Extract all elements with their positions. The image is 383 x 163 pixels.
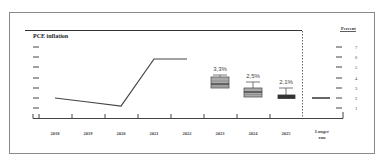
pce-history-line — [55, 59, 187, 106]
y-tick-4: 4 — [355, 76, 358, 81]
x-label-run: run — [318, 135, 326, 140]
x-label-2021: 2021 — [150, 131, 160, 136]
median-label-2023: 3,3% — [213, 66, 227, 72]
x-label-2024: 2024 — [249, 131, 259, 136]
x-label-2022: 2022 — [183, 131, 193, 136]
x-label-2020: 2020 — [117, 131, 127, 136]
median-label-2024: 2,5% — [246, 73, 260, 79]
x-label-2025: 2025 — [282, 131, 292, 136]
x-axis-labels: 2018 2019 2020 2021 2022 2023 2024 2025 … — [51, 129, 330, 140]
x-label-longer: Longer — [315, 129, 329, 134]
y-tick-7: 7 — [355, 45, 358, 50]
y-tick-6: 6 — [355, 55, 358, 60]
unit-label: Percent — [341, 26, 356, 31]
box-2025: 2,1% — [278, 79, 295, 99]
right-axis-labels: 7 6 5 4 3 2 1 — [355, 45, 358, 111]
y-tick-2: 2 — [355, 96, 357, 101]
pce-inflation-chart: PCE inflation Percent 7 6 5 4 3 2 1 — [0, 0, 383, 163]
x-label-2018: 2018 — [51, 131, 61, 136]
y-tick-1: 1 — [355, 106, 357, 111]
box-2023: 3,3% — [211, 66, 229, 88]
right-axis-ticks — [336, 47, 342, 108]
y-tick-3: 3 — [355, 86, 358, 91]
x-label-2019: 2019 — [84, 131, 94, 136]
left-axis-ticks — [33, 47, 39, 108]
x-label-2023: 2023 — [216, 131, 226, 136]
median-label-2025: 2,1% — [279, 79, 293, 85]
box-2024: 2,5% — [244, 73, 262, 97]
y-tick-5: 5 — [355, 65, 358, 70]
chart-title: PCE inflation — [33, 33, 69, 39]
x-axis-ticks — [33, 112, 343, 119]
